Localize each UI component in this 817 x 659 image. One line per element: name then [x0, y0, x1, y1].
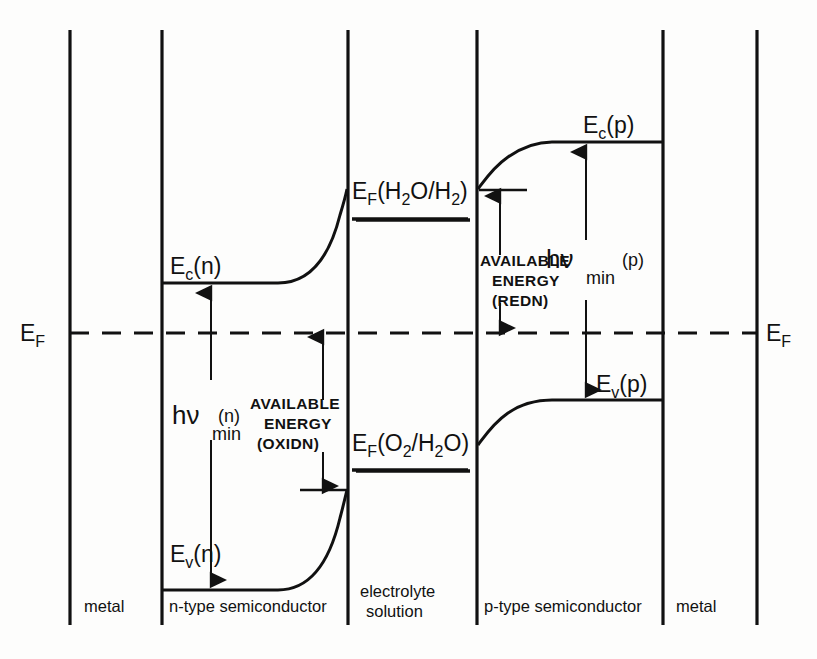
hv-n-arg: (n) — [218, 406, 240, 426]
fermi-right-base: E — [766, 320, 781, 346]
available-energy-oxidn-arrow — [300, 337, 347, 490]
ec-n-arg: (n) — [193, 253, 221, 279]
hv-n-sub: min — [212, 424, 241, 444]
fermi-label-left: EF — [20, 320, 45, 350]
level-label-redox-o2: EF(O2/H2O) — [352, 430, 469, 460]
svg-text:Ev(p): Ev(p) — [596, 371, 647, 401]
available-energy-redn-label: AVAILABLE ENERGY (REDN) — [480, 252, 570, 309]
region-boundaries — [70, 30, 757, 625]
ev-n-arg: (n) — [193, 541, 221, 567]
conduction-band-p-curve — [478, 142, 662, 189]
redox-o2-arg-sub2: 2 — [435, 443, 444, 460]
photon-label-n: hν min (n) — [172, 400, 241, 444]
ec-p-base: E — [583, 112, 598, 138]
fermi-right-sub: F — [781, 333, 791, 350]
redox-o2-sub: F — [367, 443, 377, 460]
ev-p-base: E — [596, 371, 611, 397]
fermi-label-right: EF — [766, 320, 791, 350]
band-diagram-figure: EF EF Ec(n) Ev(n) Ec(p) — [0, 0, 817, 659]
redox-o2-arg-sub1: 2 — [403, 443, 412, 460]
redox-o2-base: E — [352, 430, 367, 456]
band-diagram-svg: EF EF Ec(n) Ev(n) Ec(p) — [0, 0, 817, 659]
svg-text:EF(H2O/H2): EF(H2O/H2) — [352, 178, 468, 208]
hv-n-nu: ν — [186, 400, 199, 430]
n-type-bands — [163, 189, 347, 590]
region-label-metal-right: metal — [676, 597, 716, 615]
svg-text:hν: hν — [172, 400, 199, 430]
ec-n-sub: c — [185, 266, 193, 283]
level-label-ec-n: Ec(n) — [170, 253, 221, 283]
redox-h2-arg-sub1: 2 — [401, 191, 410, 208]
redox-h2-sub: F — [367, 191, 377, 208]
svg-text:EF: EF — [20, 320, 45, 350]
oxidn-line2: ENERGY — [264, 415, 332, 432]
ec-p-sub: c — [598, 125, 606, 142]
redox-o2-arg-pre: (O — [377, 430, 403, 456]
region-label-electrolyte-line2: solution — [366, 602, 423, 620]
svg-text:EF: EF — [766, 320, 791, 350]
level-label-ec-p: Ec(p) — [583, 112, 634, 142]
level-label-redox-h2: EF(H2O/H2) — [352, 178, 468, 208]
redox-o2-arg-post: O) — [444, 430, 470, 456]
redox-h2-arg-pre: (H — [377, 178, 401, 204]
region-label-p-type: p-type semiconductor — [484, 597, 642, 615]
level-label-ev-p: Ev(p) — [596, 371, 647, 401]
oxidn-line1: AVAILABLE — [250, 395, 340, 412]
valence-band-p-curve — [478, 400, 662, 445]
region-captions: metal n-type semiconductor electrolyte s… — [84, 582, 716, 620]
redox-h2-arg-mid: O/H — [410, 178, 451, 204]
ev-n-sub: v — [185, 554, 193, 571]
oxidn-line3: (OXIDN) — [257, 435, 319, 452]
svg-text:Ev(n): Ev(n) — [170, 541, 221, 571]
ec-p-arg: (p) — [606, 112, 634, 138]
fermi-left-base: E — [20, 320, 35, 346]
region-label-electrolyte-line1: electrolyte — [360, 582, 435, 600]
redox-h2-arg-post: ) — [460, 178, 468, 204]
valence-band-n-curve — [163, 490, 347, 590]
hv-p-sub: min — [586, 268, 615, 288]
ev-p-sub: v — [611, 384, 619, 401]
region-label-n-type: n-type semiconductor — [169, 597, 327, 615]
available-energy-oxidn-label: AVAILABLE ENERGY (OXIDN) — [250, 395, 340, 452]
hv-n-base: h — [172, 400, 186, 430]
svg-text:EF(O2/H2O): EF(O2/H2O) — [352, 430, 469, 460]
redn-line3: (REDN) — [492, 292, 549, 309]
svg-text:Ec(p): Ec(p) — [583, 112, 634, 142]
redn-line1: AVAILABLE — [480, 252, 570, 269]
fermi-left-sub: F — [35, 333, 45, 350]
ev-p-arg: (p) — [619, 371, 647, 397]
ec-n-base: E — [170, 253, 185, 279]
redox-h2-arg-sub2: 2 — [451, 191, 460, 208]
redox-h2-base: E — [352, 178, 367, 204]
hv-p-arg: (p) — [622, 250, 644, 270]
region-label-metal-left: metal — [84, 597, 124, 615]
redox-o2-arg-mid: /H — [412, 430, 435, 456]
redn-line2: ENERGY — [492, 272, 560, 289]
ev-n-base: E — [170, 541, 185, 567]
svg-text:Ec(n): Ec(n) — [170, 253, 221, 283]
level-label-ev-n: Ev(n) — [170, 541, 221, 571]
